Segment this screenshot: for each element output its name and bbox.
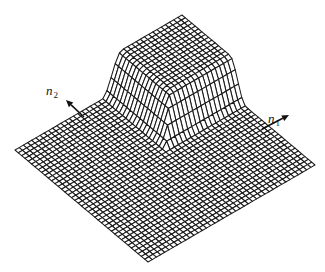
n1-label-subscript: 1: [276, 118, 281, 128]
n1-label: n1: [268, 112, 280, 128]
n1-label-base: n: [268, 111, 275, 126]
figure-canvas: n1 n2: [0, 0, 325, 272]
n2-label-subscript: 2: [54, 90, 59, 100]
wireframe-surface: [0, 0, 325, 272]
n2-label-base: n: [46, 83, 53, 98]
mesh-grid: [15, 15, 315, 262]
n2-label: n2: [46, 84, 58, 100]
